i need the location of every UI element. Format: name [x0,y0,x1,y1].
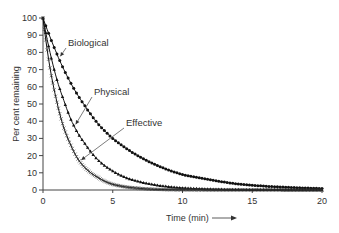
circle-marker [265,185,268,188]
y-tick-label: 90 [27,30,37,40]
circle-marker [198,176,201,179]
circle-marker [145,159,148,162]
circle-marker [256,184,259,187]
circle-marker [175,171,178,174]
circle-marker [164,167,167,170]
circle-marker [195,176,198,179]
circle-marker [270,185,273,188]
circle-marker [81,100,84,103]
circle-marker [142,157,145,160]
x-tick-label: 0 [40,196,45,206]
annotations: BiologicalPhysicalEffective [60,37,162,160]
circle-marker [55,53,58,56]
annotation-biological: Biological [60,37,108,56]
annotation-label: Physical [94,86,129,97]
triangle-marker [61,95,64,98]
annotation-label: Biological [68,37,109,48]
y-tick-label: 50 [27,99,37,109]
circle-marker [92,116,95,119]
circle-marker [220,180,223,183]
annotation-label: Effective [126,117,162,128]
circle-marker [245,183,248,186]
circle-marker [134,153,137,156]
triangle-marker [64,103,67,106]
circle-marker [86,108,89,111]
circle-marker [139,156,142,159]
circle-marker [217,180,220,183]
y-axis-label: Per cent remaining [11,66,21,142]
circle-marker [156,164,159,167]
circle-marker [201,177,204,180]
circle-marker [67,77,70,80]
circle-marker [226,181,229,184]
arrow-right-icon [231,216,237,221]
circle-marker [167,169,170,172]
triangle-marker [47,44,50,47]
circle-marker [72,87,75,90]
y-tick-label: 40 [27,116,37,126]
triangle-marker [55,78,58,81]
y-tick-label: 10 [27,168,37,178]
circle-marker [212,179,215,182]
triangle-marker [50,57,53,60]
circle-marker [47,32,50,35]
circle-marker [259,184,262,187]
y-tick-label: 30 [27,133,37,143]
x-tick-label: 10 [177,196,187,206]
y-tick-label: 0 [32,185,37,195]
y-tick-label: 100 [22,13,37,23]
x-axis-label: Time (min) [166,213,209,223]
circle-marker [153,163,156,166]
circle-marker [206,178,209,181]
circle-marker [178,172,181,175]
chart-canvas: 010203040506070809010005101520Time (min)… [0,0,339,233]
circle-marker [209,178,212,181]
circle-marker [78,96,81,99]
circle-marker [273,185,276,188]
x-tick-label: 15 [247,196,257,206]
circle-marker [100,126,103,129]
circle-marker [214,179,217,182]
circle-marker [242,183,245,186]
circle-marker [106,132,109,135]
circle-marker [192,175,195,178]
circle-marker [64,71,67,74]
decay-chart: 010203040506070809010005101520Time (min)… [0,0,339,233]
y-tick-label: 20 [27,151,37,161]
circle-marker [114,139,117,142]
circle-marker [69,82,72,85]
circle-marker [184,174,187,177]
circle-marker [170,170,173,173]
circle-marker [187,174,190,177]
arrowhead-icon [81,156,85,160]
circle-marker [117,141,120,144]
circle-marker [128,149,131,152]
circle-marker [234,182,237,185]
circle-marker [58,59,61,62]
circle-marker [262,185,265,188]
circle-marker [53,46,56,49]
circle-marker [50,39,53,42]
circle-marker [267,185,270,188]
circle-marker [189,175,192,178]
circle-marker [159,165,162,168]
circle-marker [251,184,254,187]
circle-marker [75,92,78,95]
triangle-marker [58,87,61,90]
circle-marker [203,177,206,180]
circle-marker [120,143,123,146]
circle-marker [97,123,100,126]
circle-marker [89,112,92,115]
circle-marker [150,161,153,164]
circle-marker [237,182,240,185]
circle-marker [254,184,257,187]
triangle-marker [66,111,69,114]
circle-marker [181,173,184,176]
triangle-marker [52,68,55,71]
y-tick-label: 60 [27,82,37,92]
circle-marker [279,185,282,188]
x-tick-label: 5 [110,196,115,206]
circle-marker [61,65,64,68]
circle-marker [161,166,164,169]
circle-marker [231,182,234,185]
